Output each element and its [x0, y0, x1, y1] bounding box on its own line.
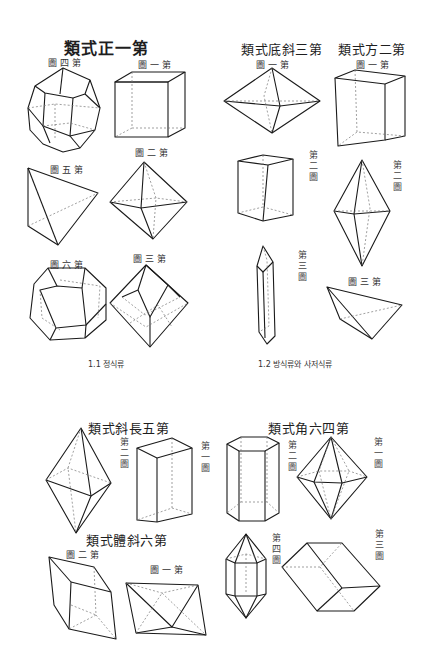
rhombohedron-figure [282, 543, 382, 618]
group-title-hexagonal: 類式角六四第 [268, 418, 349, 437]
rhombic-dodecahedron-figure [110, 265, 190, 350]
hexagonal-prism-with-pyramids-figure [226, 534, 271, 622]
triclinic-pinacoid-figure [126, 583, 208, 638]
figure-label-vertical: 第二圖 [391, 160, 404, 193]
figure-label-vertical: 第三圖 [373, 529, 386, 562]
hexagonal-bipyramid-figure [297, 437, 372, 522]
rhombohedron-figure [49, 557, 114, 642]
tetragonal-bipyramid-figure [334, 160, 394, 270]
tall-cuboid-figure [335, 70, 410, 150]
figure-label-vertical: 第二圖 [307, 150, 320, 183]
figure-label-vertical: 第三圖 [296, 250, 309, 283]
cube-figure [115, 70, 190, 140]
group-title-monoclinic: 類式底斜三第 [241, 39, 322, 58]
hexagonal-prism-figure [227, 437, 287, 525]
elongated-prism-figure [255, 246, 285, 346]
figure-label: 圖二第 [135, 146, 171, 159]
sphenoid-figure [327, 287, 407, 342]
figure-label: 圖三第 [133, 252, 169, 265]
figure-label-vertical: 第一圖 [372, 437, 385, 470]
rectangular-prism-figure [238, 155, 298, 235]
group-title-triclinic: 類式體斜六第 [86, 530, 167, 549]
tetrahedron-figure [26, 168, 101, 248]
rhombic-bipyramid-figure [46, 428, 116, 538]
pentagonal-dodecahedron-figure [30, 268, 110, 343]
octahedron-figure [110, 162, 190, 247]
caption-1-2: 1.2 방식류와 사저식류 [258, 358, 332, 369]
cuboctahedral-polyhedron-figure [25, 68, 105, 158]
cuboid-figure [137, 438, 197, 523]
figure-label-vertical: 第一圖 [199, 441, 212, 474]
figure-label: 圖一第 [150, 563, 186, 576]
bipyramid-figure [224, 68, 324, 138]
group-title-tetragonal: 類式方二第 [338, 39, 406, 58]
caption-1-1: 1.1 정식류 [88, 358, 124, 369]
figure-label-vertical: 第二圖 [118, 437, 131, 470]
